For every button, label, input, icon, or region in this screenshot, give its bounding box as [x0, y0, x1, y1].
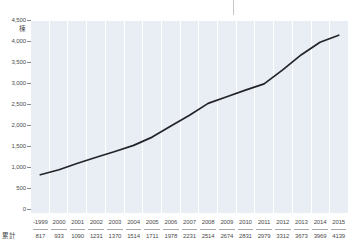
table-cell-underline	[275, 229, 291, 230]
x-tick-label: 2007	[180, 219, 199, 226]
y-axis-unit-label: 棟	[0, 25, 26, 32]
x-tick-label: 2011	[255, 219, 274, 226]
x-tick-label: -1999	[31, 219, 50, 226]
y-tick-label: 500	[0, 185, 26, 191]
x-tick-label: 2008	[199, 219, 218, 226]
table-cell-underline	[70, 229, 86, 230]
table-cell-underline	[331, 229, 347, 230]
table-cell-underline	[256, 229, 272, 230]
table-cell: 2514	[199, 233, 218, 240]
table-cell: 1370	[106, 233, 125, 240]
table-cell-underline	[126, 229, 142, 230]
y-tick-label: 3,000	[0, 80, 26, 86]
table-cell: 2674	[217, 233, 236, 240]
y-tick-label: 4,000	[0, 38, 26, 44]
table-cell-underline	[88, 229, 104, 230]
x-tick-label: 2005	[143, 219, 162, 226]
table-cell: 1514	[124, 233, 143, 240]
table-cell-underline	[200, 229, 216, 230]
table-cell: 817	[31, 233, 50, 240]
x-tick-label: 2004	[124, 219, 143, 226]
table-cell-underline	[238, 229, 254, 230]
x-tick-label: 2003	[106, 219, 125, 226]
table-cell-underline	[294, 229, 310, 230]
x-tick-label: 2006	[162, 219, 181, 226]
table-cell: 3969	[311, 233, 330, 240]
table-cell-underline	[33, 229, 49, 230]
x-tick-label: 2002	[87, 219, 106, 226]
line-series	[31, 21, 348, 213]
y-tick-label: 1,500	[0, 143, 26, 149]
x-tick-label: 2012	[273, 219, 292, 226]
x-tick-label: 2000	[50, 219, 69, 226]
table-cell: 933	[50, 233, 69, 240]
table-cell: 4139	[329, 233, 348, 240]
table-cell: 1978	[162, 233, 181, 240]
y-tick-label: 2,500	[0, 101, 26, 107]
x-tick-label: 2015	[329, 219, 348, 226]
table-cell: 2831	[236, 233, 255, 240]
table-cell-underline	[107, 229, 123, 230]
table-cell: 1090	[68, 233, 87, 240]
x-tick-label: 2010	[236, 219, 255, 226]
table-cell: 2979	[255, 233, 274, 240]
table-cell-underline	[51, 229, 67, 230]
y-tick-label: 2,000	[0, 122, 26, 128]
table-cell-underline	[182, 229, 198, 230]
y-tick-label: 4,500	[0, 17, 26, 23]
crop-mark	[233, 0, 234, 15]
cumulative-buildings-line-chart: 棟 05001,0001,5002,0002,5003,0003,5004,00…	[0, 0, 354, 244]
y-tick-label: 1,000	[0, 164, 26, 170]
x-tick-label: 2001	[68, 219, 87, 226]
table-cell: 2231	[180, 233, 199, 240]
x-tick-label: 2009	[217, 219, 236, 226]
table-cell: 1711	[143, 233, 162, 240]
x-tick-label: 2013	[292, 219, 311, 226]
plot-area	[31, 21, 348, 213]
table-cell: 3673	[292, 233, 311, 240]
table-cell: 1231	[87, 233, 106, 240]
table-cell-underline	[144, 229, 160, 230]
y-tick-label: 3,500	[0, 59, 26, 65]
table-cell-underline	[312, 229, 328, 230]
table-cell-underline	[163, 229, 179, 230]
y-tick-label: 0	[0, 206, 26, 212]
table-row-label: 累計	[2, 232, 16, 240]
table-cell-underline	[219, 229, 235, 230]
x-tick-label: 2014	[311, 219, 330, 226]
table-cell: 3312	[273, 233, 292, 240]
